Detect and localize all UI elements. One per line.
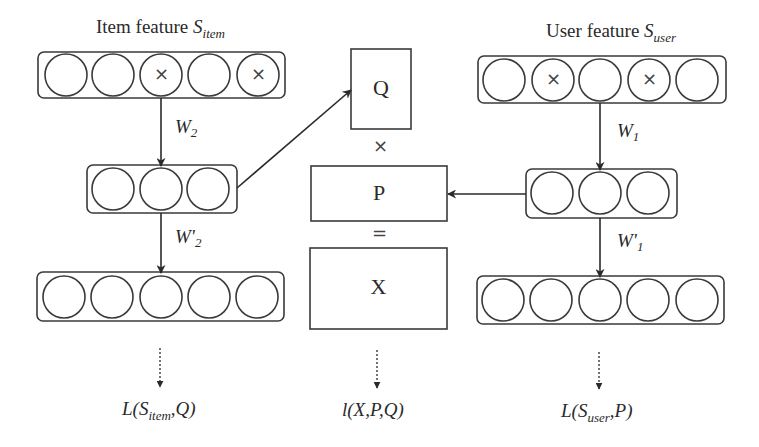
multiply-operator: ×: [373, 135, 388, 156]
mask-icon: ×: [154, 63, 169, 84]
mask-icon: ×: [251, 63, 266, 84]
item-hidden-layer: [87, 165, 237, 213]
user-output-layer: [477, 276, 724, 324]
matrix-p-label: P: [311, 180, 447, 206]
item-feature-title: Item feature Sitem: [96, 16, 225, 38]
user-decoder-weight-label: W'1: [617, 230, 643, 252]
mask-icon: ×: [546, 68, 561, 89]
user-feature-title: User feature Suser: [546, 20, 676, 42]
user-input-layer: [478, 56, 726, 103]
item-loss-label: L(Sitem,Q): [122, 398, 196, 420]
item-encoder-weight-label: W2: [175, 116, 197, 138]
user-encoder-weight-label: W1: [617, 120, 639, 142]
mask-icon: ×: [642, 68, 657, 89]
factorization-loss-label: l(X,P,Q): [342, 399, 404, 421]
user-hidden-layer: [526, 169, 677, 218]
item-to-q-arrow: [237, 90, 351, 188]
equals-operator: =: [372, 222, 387, 243]
matrix-x-label: X: [310, 274, 447, 300]
user-loss-label: L(Suser,P): [561, 400, 632, 422]
matrix-q-label: Q: [351, 75, 411, 101]
item-output-layer: [37, 272, 284, 321]
item-decoder-weight-label: W'2: [175, 226, 201, 248]
